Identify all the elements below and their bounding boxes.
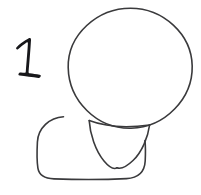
numeral-one-glyph	[16, 38, 41, 78]
head-circle-shape	[68, 8, 192, 128]
sketch-canvas: 1 Hand-drawn figure sketch	[0, 0, 201, 195]
collar-v-shape-stroke	[89, 121, 149, 127]
drawing-surface	[0, 0, 201, 195]
collar-left-edge	[89, 121, 117, 169]
figure-label-numeral	[16, 38, 41, 78]
